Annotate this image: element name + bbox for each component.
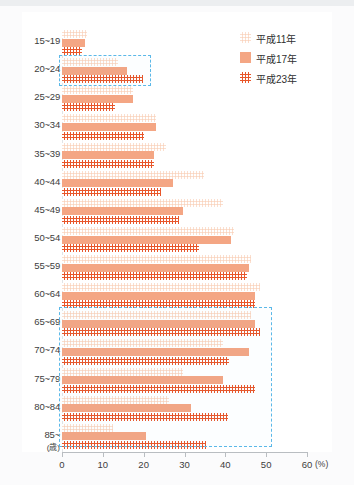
figure: 15~1920~2425~2930~3435~3940~4445~4950~54… [0, 0, 354, 485]
x-axis-tick [144, 452, 145, 457]
legend-swatch [240, 72, 251, 83]
bar-heisei17 [62, 123, 156, 131]
bar-heisei17 [62, 207, 183, 215]
bar-heisei11 [62, 283, 260, 291]
bar-heisei23 [62, 216, 179, 224]
bar-heisei17 [62, 95, 133, 103]
legend-swatch [240, 32, 251, 43]
bar-group [62, 255, 312, 280]
bar-group [62, 86, 312, 111]
x-axis-tick-label: 30 [173, 459, 197, 470]
x-axis-tick [307, 452, 308, 457]
bar-heisei11 [62, 255, 251, 263]
x-axis-tick-label: 40 [213, 459, 237, 470]
bar-heisei11 [62, 171, 204, 179]
bar-heisei11 [62, 143, 166, 151]
bar-heisei23 [62, 132, 144, 140]
bar-heisei11 [62, 227, 234, 235]
y-axis-label: 45~49 [22, 204, 60, 215]
bar-heisei17 [62, 151, 154, 159]
bar-heisei11 [62, 114, 156, 122]
y-axis-label: 35~39 [22, 148, 60, 159]
legend-swatch [240, 52, 251, 63]
bar-group [62, 227, 312, 252]
bar-group [62, 199, 312, 224]
y-axis-label: 75~79 [22, 373, 60, 384]
bar-heisei23 [62, 160, 154, 168]
bar-heisei23 [62, 188, 161, 196]
y-axis-label: 85~ [22, 429, 60, 440]
y-axis-label: 25~29 [22, 91, 60, 102]
y-axis-label: 50~54 [22, 232, 60, 243]
bar-heisei11 [62, 30, 87, 38]
y-axis-label: 80~84 [22, 401, 60, 412]
legend-label: 平成11年 [256, 31, 296, 46]
plot-area: 15~1920~2425~2930~3435~3940~4445~4950~54… [22, 12, 332, 452]
bar-heisei17 [62, 179, 173, 187]
bar-group [62, 114, 312, 139]
y-axis-label: 30~34 [22, 119, 60, 130]
figure-title [0, 0, 354, 7]
x-axis-tick-label: 10 [91, 459, 115, 470]
legend-label: 平成23年 [256, 71, 297, 86]
y-axis-label: 65~69 [22, 316, 60, 327]
y-axis-label: 70~74 [22, 344, 60, 355]
y-axis-unit-label: (歳) [20, 441, 60, 452]
y-axis-label: 60~64 [22, 288, 60, 299]
bar-heisei23 [62, 47, 82, 55]
y-axis-label: 55~59 [22, 260, 60, 271]
bar-heisei17 [62, 236, 231, 244]
y-axis-label: 15~19 [22, 35, 60, 46]
bar-heisei23 [62, 103, 115, 111]
highlight-box-65-plus [59, 307, 272, 447]
x-axis-tick-label: 50 [254, 459, 278, 470]
x-axis-tick [266, 452, 267, 457]
highlight-box-20-24 [59, 55, 151, 86]
bar-heisei23 [62, 244, 199, 252]
bar-heisei23 [62, 272, 247, 280]
y-axis-label: 20~24 [22, 63, 60, 74]
x-axis-tick [185, 452, 186, 457]
x-axis-tick [103, 452, 104, 457]
bar-heisei11 [62, 199, 223, 207]
x-axis-tick [225, 452, 226, 457]
x-axis-tick-label: 0 [50, 459, 74, 470]
bar-heisei17 [62, 292, 255, 300]
bar-heisei17 [62, 39, 85, 47]
y-axis-label: 40~44 [22, 176, 60, 187]
legend-label: 平成17年 [256, 51, 297, 66]
bar-group [62, 143, 312, 168]
bar-heisei17 [62, 264, 249, 272]
bar-group [62, 171, 312, 196]
bar-heisei11 [62, 86, 133, 94]
x-axis-tick-label: 20 [132, 459, 156, 470]
x-axis-unit-label: (%) [315, 459, 328, 469]
x-axis-tick [62, 452, 63, 457]
bar-group [62, 283, 312, 308]
